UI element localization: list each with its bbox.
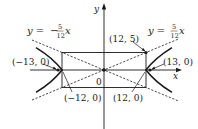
svg-text:y =: y = (26, 25, 44, 36)
y-axis-label: y (93, 4, 100, 14)
svg-text:5: 5 (172, 23, 176, 31)
equation-negative-asymptote: y = − 5 12 x (26, 23, 71, 40)
svg-text:x: x (179, 25, 185, 36)
origin-label: 0 (96, 77, 102, 87)
equation-positive-asymptote: y = 5 12 x (147, 23, 185, 40)
right-focus-label: (13, 0) (163, 57, 193, 67)
y-axis-arrow-icon (102, 3, 106, 10)
leader-left-vertex (63, 72, 72, 92)
svg-text:x: x (65, 25, 71, 36)
right-vertex-label: (12, 0) (113, 93, 143, 103)
origin-point (102, 68, 106, 72)
svg-text:5: 5 (58, 23, 62, 31)
svg-text:12: 12 (57, 32, 65, 40)
x-axis-label: x (173, 71, 178, 81)
svg-text:12: 12 (171, 32, 179, 40)
hyperbola-diagram: y x 0 (12, 5) (13, 0) (−13, 0) (−12, 0) … (0, 0, 198, 129)
svg-text:y =: y = (147, 25, 165, 36)
corner-label: (12, 5) (109, 34, 139, 44)
left-focus-point (56, 68, 59, 71)
leader-left-focus-arrow-icon (53, 67, 57, 70)
leader-right-vertex (132, 72, 145, 92)
left-focus-label: (−13, 0) (12, 57, 49, 67)
leader-right-focus-arrow-icon (151, 67, 155, 70)
right-focus-point (148, 68, 151, 71)
left-vertex-label: (−12, 0) (64, 93, 101, 103)
